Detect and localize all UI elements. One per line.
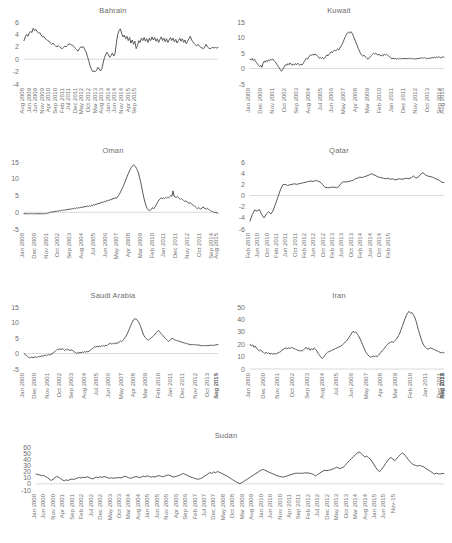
- x-tick-label: Feb 2010: [155, 372, 161, 398]
- x-tick-label: Jun 2005: [154, 493, 160, 518]
- series-line-oman: [24, 165, 218, 214]
- x-tick-label: Jan 2000: [19, 372, 25, 397]
- y-tick-label: -10: [21, 487, 31, 494]
- chart-panel-bahrain: Bahrain -4-20246Aug 2008Jan 2009Jun 2009…: [0, 0, 226, 140]
- plot-sudan: -100102030405060Jan 2000Jun 2000Nov 2000…: [0, 425, 452, 543]
- x-tick-label: Feb 2007: [192, 493, 198, 519]
- x-tick-label: Feb 2010: [376, 87, 382, 113]
- x-tick-label: Apr 2006: [173, 493, 179, 518]
- x-tick-label: Sep 2010: [52, 87, 58, 113]
- x-tick-label: Jul 2002: [88, 493, 94, 516]
- x-tick-label: Nov 2001: [43, 232, 49, 258]
- y-tick-label: 0: [15, 350, 19, 357]
- x-tick-label: Oct 2011: [196, 232, 202, 257]
- x-tick-label: Jun 2009: [32, 87, 38, 112]
- x-tick-label: Jun 2006: [348, 372, 354, 397]
- chart-panel-sudan: Sudan -100102030405060Jan 2000Jun 2000No…: [0, 425, 452, 543]
- x-tick-label: Nov 2001: [44, 372, 50, 398]
- y-tick-label: -4: [239, 214, 245, 221]
- x-tick-label: Dec 2011: [179, 372, 185, 398]
- plot-qatar: -6-4-20246Feb 2010Jun 2010Oct 2010Feb 20…: [226, 140, 452, 285]
- x-tick-label: Oct 2013: [343, 493, 349, 518]
- x-tick-label: Aug 2004: [78, 232, 84, 258]
- series-line-kuwait: [250, 32, 444, 72]
- y-tick-label: 0: [241, 65, 245, 72]
- x-tick-label: Oct 2012: [85, 87, 91, 112]
- series-line-iran: [250, 311, 444, 358]
- x-tick-label: Feb 2011: [59, 87, 65, 113]
- x-tick-label: Jan 2011: [167, 372, 173, 397]
- chart-svg-sudan: -100102030405060Jan 2000Jun 2000Nov 2000…: [0, 425, 452, 543]
- x-tick-label: Dec 2000: [31, 372, 37, 398]
- x-tick-label: Jan 2011: [388, 87, 394, 112]
- x-tick-label: Oct 2013: [204, 372, 210, 397]
- chart-panel-iran: Iran 01020304050Jan 2000Dec 2000Nov 2001…: [226, 285, 452, 425]
- y-tick-label: 0: [241, 366, 245, 373]
- x-tick-label: Feb 2012: [301, 232, 307, 258]
- x-tick-label: Feb 2011: [273, 232, 279, 258]
- x-tick-label: Aug 2014: [362, 493, 368, 519]
- y-tick-label: 6: [241, 159, 245, 166]
- x-tick-label: Feb 2002: [78, 493, 84, 519]
- x-tick-label: Dec 2002: [97, 493, 103, 519]
- chart-svg-kuwait: -5051015Jan 2000Dec 2000Nov 2001Oct 2002…: [226, 0, 452, 140]
- y-tick-label: 2: [241, 181, 245, 188]
- charts-grid: Bahrain -4-20246Aug 2008Jan 2009Jun 2009…: [0, 0, 452, 543]
- x-tick-label: Oct 2012: [320, 232, 326, 257]
- x-tick-label: Apr 2010: [45, 87, 51, 112]
- y-tick-label: -5: [13, 366, 19, 373]
- x-tick-label: Jul 2005: [90, 232, 96, 255]
- x-tick-label: Jun 2010: [254, 232, 260, 257]
- x-tick-label: Sep 2003: [66, 232, 72, 258]
- y-tick-label: 5: [15, 192, 19, 199]
- x-tick-label: Feb 2010: [407, 372, 413, 398]
- y-tick-label: 30: [237, 328, 245, 335]
- x-tick-label: Jan 2000: [245, 87, 251, 112]
- x-tick-label: Jun 2006: [102, 232, 108, 257]
- x-tick-label: Nov 2005: [163, 493, 169, 519]
- x-tick-label: Aug 2004: [319, 372, 325, 398]
- x-tick-label: Aug 2015: [439, 87, 445, 113]
- x-tick-label: Nov 2000: [50, 493, 56, 519]
- x-tick-label: Aug 2004: [81, 372, 87, 398]
- x-tick-label: Jul 2005: [317, 87, 323, 110]
- y-tick-label: 40: [237, 316, 245, 323]
- x-tick-label: Jul 2005: [333, 372, 339, 395]
- chart-svg-bahrain: -4-20246Aug 2008Jan 2009Jun 2009Nov 2009…: [0, 0, 226, 140]
- y-tick-label: 4: [15, 31, 19, 38]
- x-tick-label: Jan 2005: [144, 493, 150, 518]
- x-tick-label: Oct 2013: [348, 232, 354, 257]
- x-tick-label: Jun 2014: [111, 87, 117, 112]
- y-tick-label: 0: [27, 480, 31, 487]
- x-tick-label: Feb 2014: [357, 232, 363, 258]
- x-tick-label: Aug 2015: [213, 232, 219, 258]
- x-tick-label: Mar 2004: [125, 493, 131, 519]
- x-tick-label: May 2007: [113, 232, 119, 259]
- y-tick-label: 4: [241, 170, 245, 177]
- x-tick-label: Oct 2003: [116, 493, 122, 518]
- x-tick-label: Jan 2000: [31, 493, 37, 518]
- plot-oman: -5051015Jan 2000Dec 2000Nov 2001Oct 2002…: [0, 140, 226, 285]
- x-tick-label: Nov 2014: [118, 87, 124, 113]
- x-tick-label: Dec 2000: [257, 87, 263, 113]
- x-tick-label: Oct 2008: [229, 493, 235, 518]
- plot-bahrain: -4-20246Aug 2008Jan 2009Jun 2009Nov 2009…: [0, 0, 226, 140]
- x-tick-label: Dec 2012: [324, 493, 330, 519]
- y-tick-label: 5: [15, 335, 19, 342]
- chart-svg-qatar: -6-4-20246Feb 2010Jun 2010Oct 2010Feb 20…: [226, 140, 452, 285]
- x-tick-label: May 2008: [220, 493, 226, 520]
- x-tick-label: Oct 2002: [281, 87, 287, 112]
- x-tick-label: Aug 2004: [135, 493, 141, 519]
- y-tick-label: 10: [23, 474, 31, 481]
- x-tick-label: Apr 2001: [59, 493, 65, 518]
- y-tick-label: 30: [23, 462, 31, 469]
- x-tick-label: Jan 2000: [19, 232, 25, 257]
- y-tick-label: -5: [13, 226, 19, 233]
- y-tick-label: 50: [237, 304, 245, 311]
- x-tick-label: Aug 2015: [213, 372, 219, 398]
- x-tick-label: Sep 2003: [304, 372, 310, 398]
- y-tick-label: 10: [237, 34, 245, 41]
- x-tick-label: Mar 2009: [392, 372, 398, 398]
- chart-svg-saudi-arabia: -5051015Jan 2000Dec 2000Nov 2001Oct 2002…: [0, 285, 226, 425]
- x-tick-label: Nov 2012: [192, 372, 198, 398]
